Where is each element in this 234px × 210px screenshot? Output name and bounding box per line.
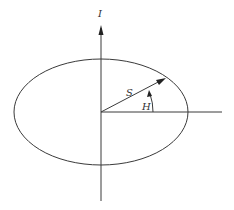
ellipse-diagram: I S H [0,0,234,210]
angle-label: H [141,101,151,112]
vector-label: S [126,87,133,98]
angle-arc-arrowhead-icon [147,90,152,97]
vertical-axis-arrow-icon [99,25,104,35]
s-vector-arrowhead-icon [156,78,166,85]
diagram-canvas: I S H [0,0,234,210]
vertical-axis-label: I [97,8,103,19]
